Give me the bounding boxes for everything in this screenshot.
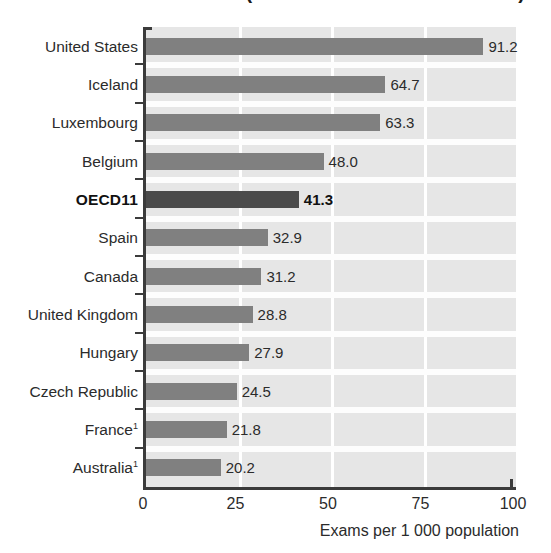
row-separator xyxy=(146,177,516,183)
category-label-belgium: Belgium xyxy=(0,153,138,170)
y-axis-cap xyxy=(143,27,152,30)
row-separator xyxy=(146,407,516,413)
x-axis-title: Exams per 1 000 population xyxy=(0,521,519,540)
x-tick-label-100: 100 xyxy=(483,495,543,513)
category-label-united-kingdom: United Kingdom xyxy=(0,306,138,323)
x-tick-label-75: 75 xyxy=(391,495,451,513)
value-label-france: 21.8 xyxy=(232,421,261,438)
bar-spain[interactable] xyxy=(146,229,268,246)
value-label-united-kingdom: 28.8 xyxy=(258,306,287,323)
x-tick-label-0: 0 xyxy=(113,495,173,513)
row-separator xyxy=(146,369,516,375)
category-label-australia: Australia1 xyxy=(0,459,138,476)
category-label-iceland: Iceland xyxy=(0,76,138,93)
row-separator xyxy=(146,62,516,68)
bar-luxembourg[interactable] xyxy=(146,114,380,131)
row-separator xyxy=(146,331,516,337)
bar-iceland[interactable] xyxy=(146,76,385,93)
y-axis-tick xyxy=(135,217,143,219)
value-label-czech-republic: 24.5 xyxy=(242,383,271,400)
y-axis-tick xyxy=(135,140,143,142)
value-label-oecd11: 41.3 xyxy=(304,191,333,208)
chart-title-cropped: Number of MRI exams (in the case of the … xyxy=(0,0,551,11)
chart-title: Number of MRI exams (in the case of the … xyxy=(0,0,551,4)
value-label-australia: 20.2 xyxy=(226,459,255,476)
bar-belgium[interactable] xyxy=(146,153,324,170)
bar-chart: Number of MRI exams (in the case of the … xyxy=(0,0,551,553)
row-separator xyxy=(146,101,516,107)
y-axis-tick xyxy=(135,332,143,334)
x-tick-label-50: 50 xyxy=(298,495,358,513)
category-label-spain: Spain xyxy=(0,229,138,246)
category-label-united-states: United States xyxy=(0,38,138,55)
y-axis-tick xyxy=(135,447,143,449)
y-axis-tick xyxy=(135,255,143,257)
x-axis-end-tick xyxy=(510,479,513,490)
bar-oecd11[interactable] xyxy=(146,191,299,208)
bar-france[interactable] xyxy=(146,421,227,438)
bar-united-states[interactable] xyxy=(146,38,483,55)
footnote-marker: 1 xyxy=(133,421,138,431)
category-label-czech-republic: Czech Republic xyxy=(0,383,138,400)
y-axis-tick xyxy=(135,293,143,295)
y-axis-tick xyxy=(135,370,143,372)
row-separator xyxy=(146,139,516,145)
bar-czech-republic[interactable] xyxy=(146,383,237,400)
plot-area xyxy=(143,27,516,490)
row-separator xyxy=(146,254,516,260)
value-label-canada: 31.2 xyxy=(266,268,295,285)
bar-hungary[interactable] xyxy=(146,344,249,361)
y-axis-tick xyxy=(135,63,143,65)
value-label-belgium: 48.0 xyxy=(329,153,358,170)
row-separator xyxy=(146,292,516,298)
x-tick-label-25: 25 xyxy=(206,495,266,513)
category-label-hungary: Hungary xyxy=(0,344,138,361)
category-label-canada: Canada xyxy=(0,268,138,285)
category-label-france: France1 xyxy=(0,421,138,438)
category-label-oecd11: OECD11 xyxy=(0,191,138,208)
y-axis-tick xyxy=(135,102,143,104)
value-label-spain: 32.9 xyxy=(273,229,302,246)
row-separator xyxy=(146,446,516,452)
y-axis-tick xyxy=(135,178,143,180)
footnote-marker: 1 xyxy=(133,459,138,469)
value-label-luxembourg: 63.3 xyxy=(385,114,414,131)
category-label-luxembourg: Luxembourg xyxy=(0,114,138,131)
bar-united-kingdom[interactable] xyxy=(146,306,253,323)
bar-australia[interactable] xyxy=(146,459,221,476)
value-label-iceland: 64.7 xyxy=(390,76,419,93)
value-label-united-states: 91.2 xyxy=(488,38,517,55)
bar-canada[interactable] xyxy=(146,268,261,285)
value-label-hungary: 27.9 xyxy=(254,344,283,361)
y-axis-tick xyxy=(135,408,143,410)
row-separator xyxy=(146,216,516,222)
